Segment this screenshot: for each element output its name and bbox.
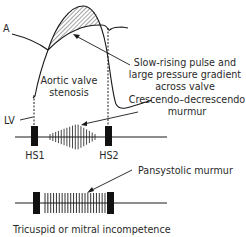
label-slow-rising-2: large pressure gradient xyxy=(129,69,242,80)
label-hs2: HS2 xyxy=(99,150,118,161)
heart-murmur-diagram: A LV Aortic valve stenosis Slow-rising p… xyxy=(0,0,246,237)
heart-sound-s2-bottom xyxy=(107,192,114,214)
cresc-arrow xyxy=(84,112,138,124)
label-lv: LV xyxy=(4,115,15,126)
label-aortic-stenosis-2: stenosis xyxy=(49,87,88,98)
pansystolic-arrow xyxy=(90,170,132,191)
gradient-arrowhead xyxy=(73,34,80,39)
label-slow-rising-3: across valve xyxy=(155,81,215,92)
lv-leader xyxy=(20,117,33,120)
label-cresc-2: murmur xyxy=(168,106,207,117)
label-hs1: HS1 xyxy=(25,150,44,161)
label-aorta: A xyxy=(3,23,10,34)
pressure-gradient-hatch xyxy=(48,6,101,50)
label-pansystolic: Pansystolic murmur xyxy=(138,165,233,176)
label-cresc-1: Crescendo–decrescendo xyxy=(129,94,246,105)
heart-sound-s1-top xyxy=(31,126,38,146)
cresc-arrowhead xyxy=(81,121,87,126)
heart-sound-s2-top xyxy=(105,126,112,146)
heart-sound-s1-bottom xyxy=(33,192,40,214)
label-aortic-stenosis-1: Aortic valve xyxy=(41,75,98,86)
label-slow-rising-1: Slow-rising pulse and xyxy=(134,57,236,68)
pansystolic-arrowhead xyxy=(87,187,94,193)
gradient-arrow xyxy=(76,36,130,65)
label-tricuspid-mitral: Tricuspid or mitral incompetence xyxy=(12,224,171,235)
